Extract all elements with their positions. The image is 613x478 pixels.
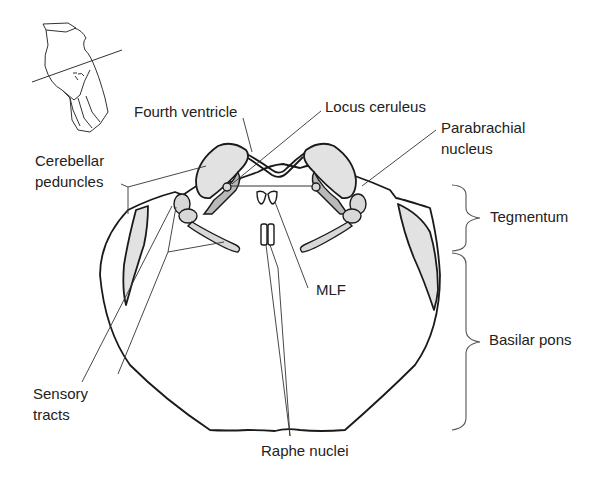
mlf-left — [257, 191, 266, 204]
cerebellar-peduncle-left — [196, 144, 248, 198]
label-locus-ceruleus: Locus ceruleus — [325, 98, 426, 115]
middle-peduncle-left — [123, 206, 148, 305]
pons-cross-section-diagram: Fourth ventricle Locus ceruleus Parabrac… — [0, 0, 613, 478]
label-sensory-line2: tracts — [33, 406, 70, 423]
mlf-right — [268, 191, 277, 204]
pons-outline — [100, 164, 440, 431]
locus-ceruleus-right — [312, 183, 320, 191]
basilar-pons-brace — [452, 253, 480, 430]
label-cerebellar-line1: Cerebellar — [35, 152, 104, 169]
tegmentum-brace — [452, 185, 480, 251]
sensory-blob-right-2 — [343, 209, 361, 223]
label-parabrachial-line1: Parabrachial — [441, 119, 525, 136]
sensory-blob-left-2 — [179, 209, 197, 223]
sensory-tract-right — [300, 222, 352, 252]
label-parabrachial-line2: nucleus — [441, 140, 493, 157]
label-raphe-nuclei: Raphe nuclei — [261, 442, 349, 459]
cerebellar-peduncle-right — [304, 144, 356, 198]
label-sensory-line1: Sensory — [33, 385, 89, 402]
label-tegmentum: Tegmentum — [490, 208, 568, 225]
label-basilar-pons: Basilar pons — [489, 331, 572, 348]
raphe-nucleus-right — [268, 224, 274, 245]
raphe-nucleus-left — [261, 224, 267, 245]
label-cerebellar-line2: peduncles — [35, 173, 103, 190]
brainstem-inset-icon — [32, 23, 122, 132]
locus-ceruleus-left — [223, 183, 231, 191]
label-fourth-ventricle: Fourth ventricle — [134, 103, 237, 120]
label-mlf: MLF — [316, 281, 346, 298]
